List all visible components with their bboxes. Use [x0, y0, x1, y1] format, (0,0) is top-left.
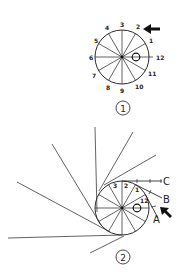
label-11: 11	[148, 70, 156, 77]
figure-1: 12 1 2 3 4 5 6 7 8 9 10 11 1	[89, 21, 164, 115]
figure-2-label: 2	[120, 253, 126, 263]
label-8: 8	[106, 84, 110, 91]
label-3: 3	[120, 21, 124, 28]
point-c-label: C	[163, 176, 170, 187]
label-4: 4	[105, 24, 109, 31]
label-2: 2	[136, 23, 140, 30]
label-6: 6	[89, 54, 93, 61]
point-a-label: A	[153, 214, 160, 225]
label-10: 10	[135, 83, 143, 90]
figure-2: 3 2 1 12 C B A 2	[8, 127, 172, 264]
label-2: 2	[124, 182, 128, 189]
center-dot	[121, 207, 124, 210]
label-1: 1	[149, 37, 153, 44]
line-b	[136, 185, 163, 198]
diagram-canvas: 12 1 2 3 4 5 6 7 8 9 10 11 1	[0, 0, 190, 277]
figure-1-label: 1	[120, 104, 126, 114]
label-5: 5	[94, 37, 98, 44]
label-7: 7	[92, 72, 96, 79]
tangent-lines	[8, 127, 156, 253]
point-b-label: B	[163, 194, 170, 205]
label-3: 3	[113, 182, 117, 189]
label-12: 12	[156, 54, 164, 61]
label-12: 12	[140, 197, 148, 204]
label-9: 9	[120, 87, 124, 94]
center-dot	[121, 56, 124, 59]
up-left-arrow-icon	[160, 207, 172, 218]
left-arrow-icon	[143, 24, 160, 34]
label-1: 1	[135, 186, 139, 193]
